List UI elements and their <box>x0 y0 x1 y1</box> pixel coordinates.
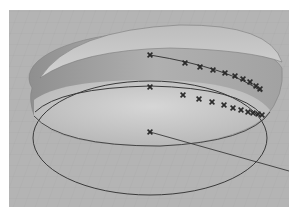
scene-canvas[interactable] <box>9 10 289 207</box>
3d-viewport[interactable] <box>9 10 289 207</box>
